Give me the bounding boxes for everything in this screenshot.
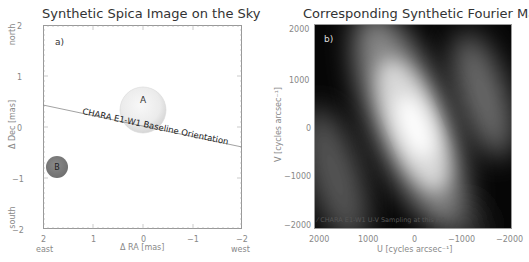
v-tick-m2000: −2000 xyxy=(284,221,311,230)
v-tick-m1000: −1000 xyxy=(284,172,311,181)
v-tick-1000: 1000 xyxy=(289,76,309,85)
uv-sampling-annotation: ⁄ CHARA E1-W1 U-V Sampling at this HA xyxy=(317,216,445,224)
fourier-heatmap: b) ⁄ CHARA E1-W1 U-V Sampling at this HA xyxy=(314,24,512,229)
west-label: west xyxy=(231,245,250,254)
panel-a-label: a) xyxy=(55,37,64,47)
y-tick-1: 1 xyxy=(17,73,22,82)
x-axis-label: Δ RA [mas] xyxy=(120,243,164,252)
star-a-label: A xyxy=(140,95,147,105)
u-tick-0: 0 xyxy=(412,235,417,244)
u-axis-label: U [cycles arcsec⁻¹] xyxy=(377,245,452,254)
v-tick-2000: 2000 xyxy=(289,25,309,34)
north-label: north xyxy=(8,15,17,55)
x-tick-m1: −1 xyxy=(187,235,199,244)
panel-b-label: b) xyxy=(324,34,333,44)
y-tick-2: 2 xyxy=(17,22,22,31)
east-label: east xyxy=(36,245,53,254)
fourier-heatmap-graphics xyxy=(315,25,512,229)
y-axis-label: Δ Dec [mas] xyxy=(8,95,17,155)
x-tick-m2: −2 xyxy=(236,235,248,244)
y-tick-0: 0 xyxy=(17,124,22,133)
x-tick-2: 2 xyxy=(41,235,46,244)
u-tick-m2000: −2000 xyxy=(496,235,523,244)
y-tick-m1: −1 xyxy=(12,175,24,184)
south-label: south xyxy=(8,198,17,238)
u-tick-1000: 1000 xyxy=(358,235,378,244)
u-tick-2000: 2000 xyxy=(309,235,329,244)
star-b-label: B xyxy=(54,163,60,172)
x-tick-1: 1 xyxy=(91,235,96,244)
u-tick-m1000: −1000 xyxy=(448,235,475,244)
chart-b-title: Corresponding Synthetic Fourier Map xyxy=(303,6,527,21)
v-tick-0: 0 xyxy=(306,124,311,133)
v-axis-label: V [cycles arcsec⁻¹] xyxy=(274,75,283,175)
